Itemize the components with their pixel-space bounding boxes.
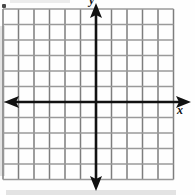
horizontal-gridlines — [3, 9, 174, 180]
coordinate-grid-figure: x y — [0, 0, 195, 195]
scan-artifact-corner — [2, 4, 6, 8]
vertical-gridlines — [3, 9, 174, 180]
plot-area — [0, 0, 195, 195]
x-axis-label: x — [177, 104, 183, 116]
x-axis — [4, 96, 191, 108]
y-axis-label: y — [89, 0, 94, 6]
y-axis — [90, 3, 102, 191]
